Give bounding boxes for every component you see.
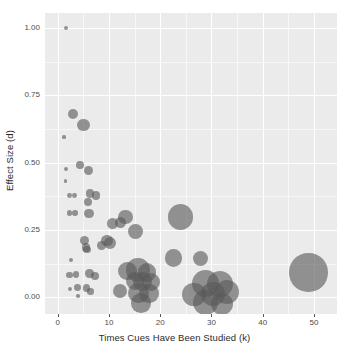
data-point-bubble (64, 26, 68, 30)
x-tick-mark (263, 314, 264, 317)
x-axis-title-text: Times Cues Have Been Studied (k) (99, 332, 251, 343)
data-point-bubble (97, 241, 106, 250)
gridline-horizontal-minor (45, 129, 337, 130)
data-point-bubble (84, 166, 93, 175)
x-axis-title: Times Cues Have Been Studied (k) (0, 332, 349, 343)
y-tick-label: 0.75 (14, 91, 40, 99)
data-point-bubble (84, 198, 92, 206)
data-point-bubble (69, 258, 73, 262)
data-point-bubble (168, 204, 193, 229)
x-tick-label: 10 (98, 319, 120, 327)
x-tick-mark (58, 314, 59, 317)
y-tick-label: 0.50 (14, 159, 40, 167)
data-point-bubble (131, 293, 151, 313)
x-tick-label: 40 (252, 319, 274, 327)
gridline-horizontal (45, 163, 337, 164)
data-point-bubble (64, 179, 68, 183)
data-point-bubble (68, 109, 78, 119)
data-point-bubble (64, 167, 68, 171)
data-point-bubble (92, 191, 100, 199)
x-tick-label: 20 (149, 319, 171, 327)
data-point-bubble (83, 246, 90, 253)
data-point-bubble (165, 249, 182, 266)
data-point-bubble (84, 209, 93, 218)
y-tick-label: 1.00 (14, 24, 40, 32)
y-axis-title-text: Effect Size (d) (4, 130, 15, 191)
data-point-bubble (74, 284, 81, 291)
data-point-bubble (77, 119, 89, 131)
data-point-bubble (68, 287, 72, 291)
x-tick-mark (314, 314, 315, 317)
gridline-horizontal (45, 230, 337, 231)
data-point-bubble (67, 193, 72, 198)
y-tick-label: 0.00 (14, 293, 40, 301)
y-axis-tick-labels: 0.000.250.500.751.00 (14, 0, 40, 354)
x-tick-label: 50 (303, 319, 325, 327)
data-point-bubble (289, 253, 327, 291)
data-point-bubble (72, 210, 78, 216)
y-tick-label: 0.25 (14, 226, 40, 234)
x-tick-mark (211, 314, 212, 317)
data-point-bubble (115, 217, 126, 228)
x-tick-label: 0 (47, 319, 69, 327)
data-point-bubble (76, 161, 84, 169)
gridline-horizontal (45, 95, 337, 96)
data-point-bubble (76, 294, 80, 298)
scatter-plot-figure: Effect Size (d) 0.000.250.500.751.00 010… (0, 0, 349, 354)
x-tick-mark (160, 314, 161, 317)
data-point-bubble (72, 193, 77, 198)
data-point-bubble (211, 293, 233, 314)
data-point-bubble (62, 135, 65, 138)
data-point-bubble (91, 272, 99, 280)
x-tick-label: 30 (200, 319, 222, 327)
data-point-bubble (73, 271, 79, 277)
data-point-bubble (87, 288, 93, 294)
data-point-bubble (104, 237, 116, 249)
data-point-bubble (66, 272, 72, 278)
x-tick-mark (109, 314, 110, 317)
plot-panel (45, 13, 337, 314)
data-point-bubble (193, 251, 208, 266)
gridline-horizontal (45, 28, 337, 29)
data-point-bubble (128, 224, 143, 239)
gridline-horizontal-minor (45, 62, 337, 63)
